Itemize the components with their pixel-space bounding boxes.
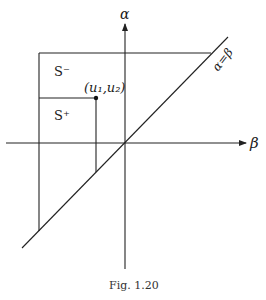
s-plus-label: S⁺ [54, 108, 70, 123]
beta-axis-label: β [249, 134, 259, 152]
figure-caption: Fig. 1.20 [109, 279, 159, 292]
alpha-axis-label: α [120, 6, 130, 22]
s-minus-label: S⁻ [54, 64, 70, 79]
diagram: α β S⁻ S⁺ (u₁,u₂) α=β Fig. 1.20 [0, 0, 266, 300]
point-u1-u2 [94, 96, 98, 100]
point-label: (u₁,u₂) [84, 80, 125, 95]
diagonal-label: α=β [209, 45, 236, 73]
